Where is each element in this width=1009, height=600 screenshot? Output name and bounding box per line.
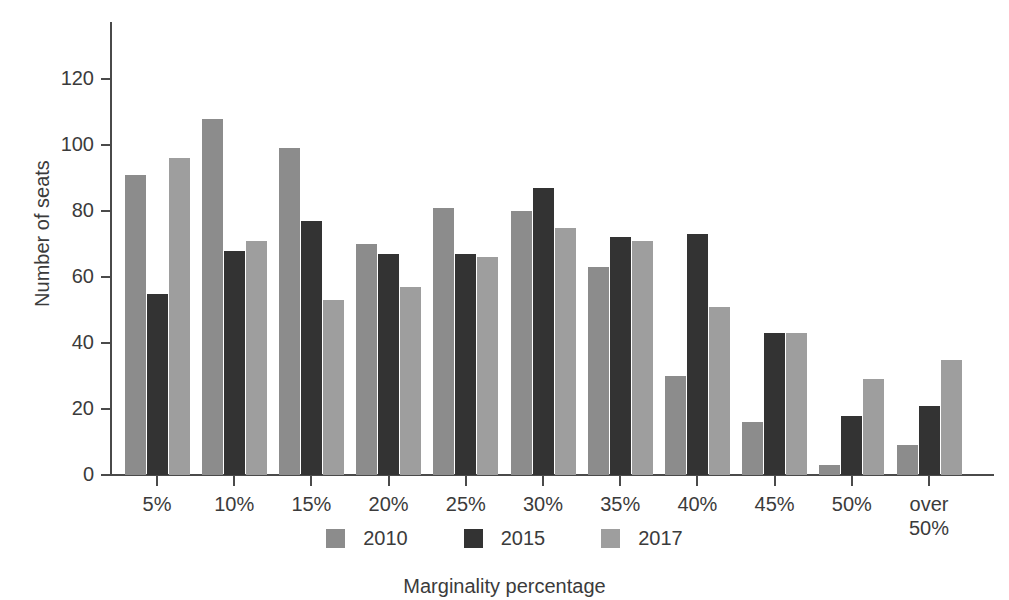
plot-area [0,0,1009,475]
legend-swatch-icon [464,529,483,548]
x-axis-tick [851,476,853,486]
x-axis-tick [928,476,930,486]
x-axis-tick [774,476,776,486]
x-axis-tick [310,476,312,486]
bar-chart: Number of seats 020406080100120 5%10%15%… [0,0,1009,600]
bar [433,208,454,475]
x-axis-tick [619,476,621,486]
bar [125,175,146,475]
x-axis-tick [156,476,158,486]
bar [588,267,609,475]
bar [477,257,498,475]
bar [863,379,884,475]
legend-item[interactable]: 2010 [326,528,408,548]
bar [400,287,421,475]
bar [555,228,576,476]
x-axis-tick [542,476,544,486]
bar [632,241,653,475]
bar [147,294,168,476]
x-axis-tick [696,476,698,486]
legend-item[interactable]: 2017 [601,528,683,548]
chart-legend: 201020152017 [0,528,1009,548]
bar [378,254,399,475]
legend-item-label: 2015 [501,528,546,548]
bar [301,221,322,475]
legend-swatch-icon [326,529,345,548]
x-axis-tick [465,476,467,486]
bar [819,465,840,475]
bar [224,251,245,475]
bar [323,300,344,475]
legend-item-label: 2010 [363,528,408,548]
legend-item[interactable]: 2015 [464,528,546,548]
legend-swatch-icon [601,529,620,548]
bar [533,188,554,475]
bar [742,422,763,475]
bar [841,416,862,475]
bar [169,158,190,475]
x-axis-title: Marginality percentage [0,575,1009,598]
bar [511,211,532,475]
legend-item-label: 2017 [638,528,683,548]
bar [279,148,300,475]
x-axis-tick [388,476,390,486]
bar [665,376,686,475]
bar [709,307,730,475]
bar [919,406,940,475]
bar [941,360,962,476]
bar [356,244,377,475]
bar [202,119,223,475]
bar [687,234,708,475]
x-axis-tick [233,476,235,486]
bar [455,254,476,475]
bar [610,237,631,475]
bar [786,333,807,475]
bar [246,241,267,475]
bar [764,333,785,475]
bar [897,445,918,475]
